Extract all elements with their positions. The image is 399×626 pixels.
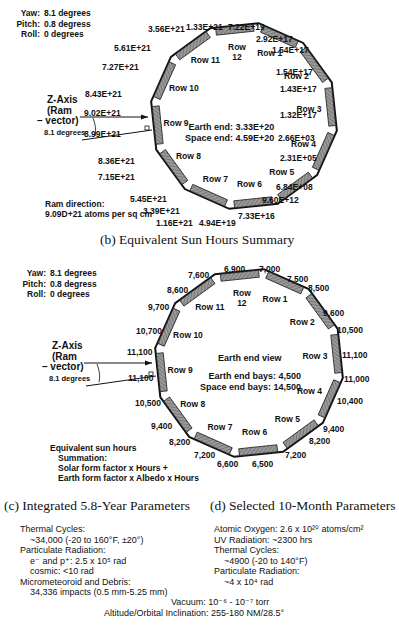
edge-value: 11,000 <box>344 374 370 384</box>
panel-bar <box>156 353 167 392</box>
edge-value: 7,000 <box>259 264 280 274</box>
section-c-params: Thermal Cycles: ~34,000 (-20 to 160°F, ±… <box>20 524 168 598</box>
row-label: Row 3 <box>302 351 327 361</box>
row-label: Row 7 <box>207 422 232 432</box>
angle-label-b: 8.1 degrees <box>49 374 90 384</box>
param-line: 34,336 impacts (0.5 mm-5.25 mm) <box>20 587 168 598</box>
title-d: (d) Selected 10-Month Parameters <box>210 498 396 514</box>
row-label: Row 1 <box>263 294 288 304</box>
summation-line4: Earth form factor x Albedo x Hours <box>50 473 199 483</box>
param-line: Thermal Cycles: <box>20 524 168 535</box>
edge-value: 7,200 <box>194 450 215 460</box>
yaw-label: Yaw: <box>12 268 50 279</box>
edge-value: 8,200 <box>169 437 190 447</box>
row-label: Row12 <box>233 288 251 308</box>
param-line: ~4 x 10⁴ rad <box>214 577 364 588</box>
edge-value: 9,600 <box>323 308 344 318</box>
edge-value: 8,500 <box>308 283 329 293</box>
param-line: Particulate Radiation: <box>20 545 168 556</box>
earth-end-view-label: Earth end view <box>218 353 282 363</box>
attitude-block-b: Yaw:8.1 degrees Pitch:0.8 degress Roll:0… <box>12 268 97 300</box>
earth-end-bays: Earth end bays: 4,500 <box>200 371 301 382</box>
summation-line3: Solar form factor x Hours + <box>50 463 199 473</box>
edge-value: 6,900 <box>224 264 245 274</box>
row-label: Row 10 <box>173 330 203 340</box>
edge-value: 6,500 <box>252 459 273 469</box>
param-line: UV Radiation: ~2300 hrs <box>214 535 364 546</box>
pitch-label: Pitch: <box>12 279 50 290</box>
panel-bar <box>239 445 278 456</box>
param-line: ~34,000 (-20 to 160°F, ±20°) <box>20 535 168 546</box>
center-text-b: Earth end bays: 4,500 Space end bays: 14… <box>200 371 301 393</box>
edge-value: 8,200 <box>309 436 330 446</box>
param-line: Atomic Oxygen: 2.6 x 10²⁰ atoms/cm² <box>214 524 364 535</box>
summation-note: Equivalent sun hours Summation: Solar fo… <box>50 443 199 483</box>
edge-value: 10,500 <box>337 325 363 335</box>
edge-value: 10,700 <box>136 326 162 336</box>
edge-value: 6,600 <box>217 459 238 469</box>
zaxis-line1: Z-Axis <box>52 340 83 351</box>
edge-value: 8,600 <box>167 285 188 295</box>
space-end-bays: Space end bays: 14,500 <box>200 382 301 393</box>
param-line: ~4900 (-20 to 140°F) <box>214 556 364 567</box>
zaxis-line3-b: – vector) <box>42 362 84 372</box>
row-label: Row 9 <box>168 365 193 375</box>
summation-line2: Summation: <box>50 453 199 463</box>
param-line: Particulate Radiation: <box>214 566 364 577</box>
row-label: Row 2 <box>290 317 315 327</box>
row-label: Row 4 <box>297 386 322 396</box>
section-d-params: Atomic Oxygen: 2.6 x 10²⁰ atoms/cm² UV R… <box>214 524 364 587</box>
edge-value: 10,400 <box>337 396 363 406</box>
param-line: cosmic: <10 rad <box>20 566 168 577</box>
edge-value: 9,400 <box>323 424 344 434</box>
title-c: (c) Integrated 5.8-Year Parameters <box>4 498 190 514</box>
edge-value: 9,700 <box>148 302 169 312</box>
row-label: Row 8 <box>180 399 205 409</box>
edge-value: 7,200 <box>285 450 306 460</box>
vacuum-param: Vacuum: 10⁻⁶ - 10⁻⁷ torr <box>171 597 269 608</box>
pitch-value: 0.8 degress <box>50 279 97 290</box>
edge-value: 9,400 <box>151 421 172 431</box>
param-line: e⁻ and p⁺: 2.5 x 10⁵ rad <box>20 556 168 567</box>
edge-value: 10,500 <box>135 398 161 408</box>
altitude-param: Altitude/Orbital Inclination: 255-180 NM… <box>104 608 284 619</box>
roll-label: Roll: <box>12 289 50 300</box>
param-line: Micrometeoroid and Debris: <box>20 577 168 588</box>
zaxis-label-b: Z-Axis (Ram <box>52 340 83 362</box>
edge-value: 7,600 <box>188 270 209 280</box>
row-label: Row 11 <box>195 302 224 312</box>
edge-value: 7,500 <box>287 274 308 284</box>
edge-value: 11,100 <box>342 350 368 360</box>
panel-bar <box>331 334 342 373</box>
row-label: Row 5 <box>275 414 300 424</box>
roll-value: 0 degrees <box>50 289 90 300</box>
yaw-value: 8.1 degrees <box>50 268 97 279</box>
param-line: Thermal Cycles: <box>214 545 364 556</box>
edge-value: 11,100 <box>127 347 153 357</box>
row-label: Row 6 <box>242 427 267 437</box>
edge-value: 11,100 <box>128 373 154 383</box>
